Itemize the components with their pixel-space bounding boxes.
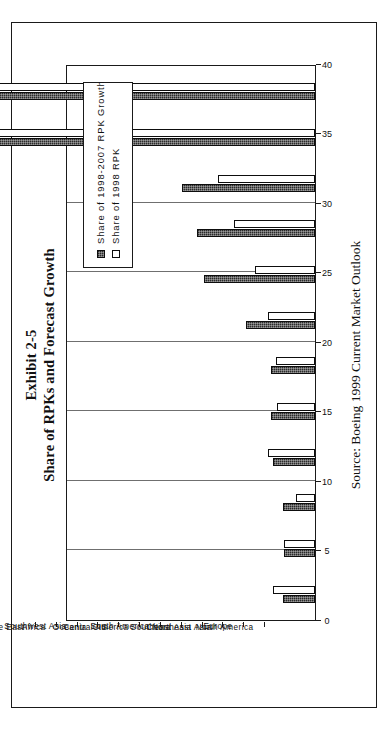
legend-item[interactable]: Share of 1998 RPK [110, 92, 121, 258]
legend-swatch-icon [112, 250, 120, 258]
bar[interactable] [182, 184, 315, 192]
axis-tick-mark [316, 203, 321, 204]
bar[interactable] [246, 321, 316, 329]
rotated-figure-stage: Exhibit 2-5 Share of RPKs and Forecast G… [14, 25, 374, 705]
axis-tick-label: 5 [324, 547, 329, 557]
axis-tick-mark [316, 134, 321, 135]
bar[interactable] [234, 220, 315, 228]
bar-group [67, 389, 315, 435]
axis-tick-label: 30 [322, 199, 332, 209]
bar-group [67, 480, 315, 526]
axis-tick-mark [316, 551, 321, 552]
bar[interactable] [0, 83, 315, 91]
figure-title-block: Exhibit 2-5 Share of RPKs and Forecast G… [22, 25, 60, 705]
bar[interactable] [283, 503, 315, 511]
axis-tick-mark [316, 273, 321, 274]
legend-item[interactable]: Share of 1998-2007 RPK Growth [95, 92, 106, 258]
bar[interactable] [0, 92, 315, 100]
bar[interactable] [0, 138, 315, 146]
legend-label: Share of 1998 RPK [110, 148, 121, 244]
bar[interactable] [271, 366, 315, 374]
bar[interactable] [271, 412, 315, 420]
bar[interactable] [284, 549, 315, 557]
axis-tick-mark [316, 64, 321, 65]
axis-tick-mark [316, 620, 321, 621]
plot-area: Share of 1998-2007 RPK GrowthShare of 19… [66, 65, 316, 621]
bar[interactable] [255, 266, 315, 274]
source-note: Source: Boeing 1999 Current Market Outlo… [348, 25, 364, 705]
axis-tick-label: 10 [322, 477, 332, 487]
bar[interactable] [284, 540, 315, 548]
bar[interactable] [0, 129, 315, 137]
bar[interactable] [273, 458, 315, 466]
bar-group [67, 571, 315, 617]
axis-tick-label: 20 [322, 338, 332, 348]
bar[interactable] [268, 449, 315, 457]
category-axis: Middle EastAfricaSouthwest AsiaOceaniaCI… [14, 621, 264, 705]
axis-tick-label: 0 [324, 616, 329, 626]
axis-tick-mark [316, 342, 321, 343]
scanned-page-frame: Exhibit 2-5 Share of RPKs and Forecast G… [11, 22, 377, 708]
bar[interactable] [273, 586, 315, 594]
category-label: North America [196, 623, 254, 632]
axis-tick-label: 40 [322, 60, 332, 70]
axis-tick-label: 15 [322, 408, 332, 418]
plot-wrapper: Share of 1998-2007 RPK GrowthShare of 19… [66, 65, 316, 621]
value-axis: 0510152025303540 [316, 65, 340, 621]
category-tick-mark [264, 622, 265, 627]
bar[interactable] [277, 403, 315, 411]
axis-tick-label: 35 [322, 130, 332, 140]
axis-tick-mark [316, 481, 321, 482]
exhibit-label: Exhibit 2-5 [22, 25, 40, 705]
bar[interactable] [197, 229, 315, 237]
legend-label: Share of 1998-2007 RPK Growth [95, 80, 106, 244]
bar-group [67, 434, 315, 480]
bar-group [67, 297, 315, 343]
bar[interactable] [283, 595, 315, 603]
bar[interactable] [204, 275, 315, 283]
bar[interactable] [218, 175, 315, 183]
axis-tick-label: 25 [322, 269, 332, 279]
bar[interactable] [268, 312, 315, 320]
page-title: Share of RPKs and Forecast Growth [40, 25, 60, 705]
legend-swatch-icon [97, 250, 105, 258]
chart-legend: Share of 1998-2007 RPK GrowthShare of 19… [83, 82, 133, 268]
axis-tick-mark [316, 412, 321, 413]
bar[interactable] [296, 494, 315, 502]
bar-group [67, 343, 315, 389]
bar-group [67, 526, 315, 572]
bar[interactable] [276, 357, 315, 365]
